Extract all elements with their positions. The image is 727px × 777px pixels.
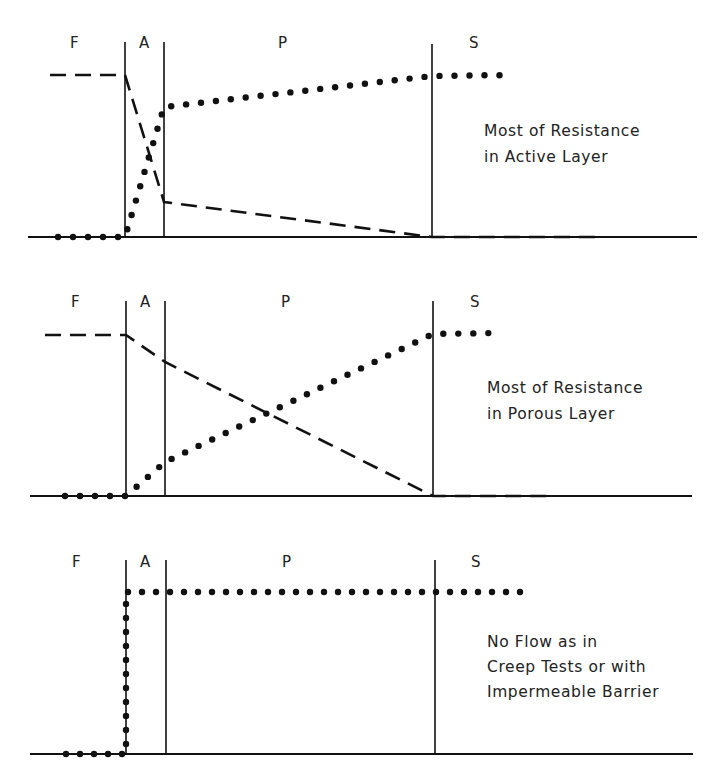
profile-dot bbox=[223, 430, 229, 436]
profile-dot bbox=[107, 493, 113, 499]
profile-dot bbox=[362, 81, 368, 87]
profile-dot bbox=[156, 464, 162, 470]
region-label-a: A bbox=[140, 553, 151, 571]
profile-dot bbox=[251, 589, 257, 595]
region-label-a: A bbox=[140, 293, 151, 311]
profile-dot bbox=[183, 101, 189, 107]
region-label-a: A bbox=[139, 34, 150, 52]
profile-dot bbox=[257, 93, 263, 99]
profile-dot bbox=[123, 727, 129, 733]
profile-dot bbox=[489, 589, 495, 595]
annotation-line-1: Most of Resistance bbox=[484, 122, 640, 140]
profile-dot bbox=[272, 91, 278, 97]
profile-dot bbox=[412, 339, 418, 345]
profile-dot bbox=[237, 589, 243, 595]
profile-dot bbox=[209, 589, 215, 595]
profile-dot bbox=[139, 589, 145, 595]
profile-dot bbox=[335, 589, 341, 595]
profile-dot bbox=[123, 741, 129, 747]
profile-dot bbox=[436, 73, 442, 79]
profile-dot bbox=[265, 589, 271, 595]
panel-no-flow: F A P S No Flow as in Creep Tests or wit… bbox=[30, 553, 693, 757]
profile-dot bbox=[451, 73, 457, 79]
region-label-p: P bbox=[281, 293, 290, 311]
profile-dot bbox=[154, 126, 160, 132]
profile-dot bbox=[344, 372, 350, 378]
profile-dot bbox=[213, 98, 219, 104]
profile-dot bbox=[159, 111, 165, 117]
profile-dot bbox=[209, 436, 215, 442]
profile-dot bbox=[358, 365, 364, 371]
profile-dot bbox=[236, 423, 242, 429]
profile-dot bbox=[277, 404, 283, 410]
profile-dot bbox=[485, 330, 491, 336]
profile-dot bbox=[55, 234, 61, 240]
profile-dot bbox=[466, 72, 472, 78]
profile-dot bbox=[125, 589, 131, 595]
profile-dot bbox=[307, 589, 313, 595]
annotation-line-2: Creep Tests or with bbox=[487, 658, 646, 676]
profile-dot bbox=[263, 410, 269, 416]
profile-dot bbox=[119, 751, 125, 757]
panel-porous-layer: F A P S Most of Resistance in Porous Lay… bbox=[30, 293, 692, 499]
profile-dot bbox=[92, 493, 98, 499]
profile-dot bbox=[392, 77, 398, 83]
profile-dot bbox=[302, 88, 308, 94]
profile-dot bbox=[133, 197, 139, 203]
profile-dot bbox=[145, 474, 151, 480]
profile-dot bbox=[426, 333, 432, 339]
annotation-line-2: in Porous Layer bbox=[487, 405, 615, 423]
profile-dot bbox=[287, 89, 293, 95]
profile-dot bbox=[347, 82, 353, 88]
profile-dot bbox=[317, 385, 323, 391]
region-label-s: S bbox=[471, 553, 481, 571]
profile-dot bbox=[123, 615, 129, 621]
region-label-f: F bbox=[71, 293, 80, 311]
profile-dot bbox=[496, 72, 502, 78]
annotation-line-1: Most of Resistance bbox=[487, 379, 643, 397]
profile-dot bbox=[317, 86, 323, 92]
profile-dot bbox=[304, 391, 310, 397]
profile-dot bbox=[153, 589, 159, 595]
profile-dot bbox=[293, 589, 299, 595]
profile-dot bbox=[517, 589, 523, 595]
profile-dot bbox=[198, 100, 204, 106]
profile-dot bbox=[123, 671, 129, 677]
profile-dot bbox=[70, 234, 76, 240]
profile-dot bbox=[447, 589, 453, 595]
profile-dot bbox=[349, 589, 355, 595]
region-label-s: S bbox=[470, 293, 480, 311]
profile-dot bbox=[124, 226, 130, 232]
profile-dot bbox=[123, 713, 129, 719]
profile-dot bbox=[377, 79, 383, 85]
profile-dot bbox=[181, 589, 187, 595]
profile-dot bbox=[167, 589, 173, 595]
profile-dot bbox=[62, 493, 68, 499]
profile-dot bbox=[279, 589, 285, 595]
profile-dot bbox=[332, 84, 338, 90]
profile-dot bbox=[421, 74, 427, 80]
profile-dot bbox=[123, 629, 129, 635]
region-label-p: P bbox=[282, 553, 291, 571]
profile-dot bbox=[371, 359, 377, 365]
annotation-line-3: Impermeable Barrier bbox=[487, 683, 659, 701]
membrane-resistance-diagram: F A P S Most of Resistance in Active Lay… bbox=[0, 0, 727, 777]
profile-dot bbox=[182, 449, 188, 455]
profile-dot bbox=[433, 589, 439, 595]
profile-dot bbox=[391, 589, 397, 595]
profile-dot bbox=[406, 75, 412, 81]
profile-dot bbox=[419, 589, 425, 595]
profile-dot bbox=[115, 234, 121, 240]
region-label-s: S bbox=[469, 34, 479, 52]
profile-dot bbox=[122, 493, 128, 499]
profile-dot bbox=[377, 589, 383, 595]
dotted-profile bbox=[55, 72, 503, 240]
region-label-p: P bbox=[278, 34, 287, 52]
profile-dot bbox=[105, 751, 111, 757]
dotted-profile bbox=[63, 589, 523, 757]
profile-dot bbox=[100, 234, 106, 240]
profile-dot bbox=[321, 589, 327, 595]
profile-dot bbox=[123, 699, 129, 705]
profile-dot bbox=[250, 417, 256, 423]
profile-dot bbox=[290, 398, 296, 404]
